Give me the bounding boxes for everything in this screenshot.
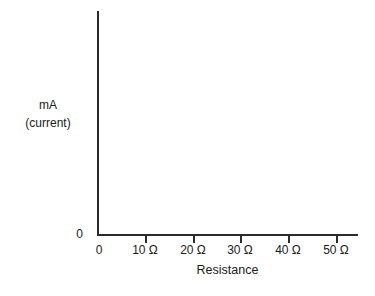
y-axis-line [97, 11, 99, 236]
x-axis-title: Resistance [97, 262, 358, 278]
x-axis-tick-30 [240, 236, 242, 243]
x-axis-tick-20 [193, 236, 195, 243]
x-axis-tick-label-40: 40 Ω [275, 243, 301, 257]
y-axis-title: mA (current) [8, 96, 88, 132]
y-axis-title-line2: (current) [8, 114, 88, 132]
x-axis-tick-label-50: 50 Ω [323, 243, 349, 257]
plot-area [99, 11, 358, 234]
y-axis-tick-label-0: 0 [76, 227, 83, 241]
x-axis-tick-label-10: 10 Ω [132, 243, 158, 257]
x-axis-line [97, 234, 358, 236]
y-axis-title-line1: mA [8, 96, 88, 114]
chart-screenshot: 0 10 Ω 20 Ω 30 Ω 40 Ω 50 Ω 0 mA (current… [0, 0, 375, 296]
x-axis-tick-label-0: 0 [96, 243, 103, 257]
x-axis-tick-40 [288, 236, 290, 243]
x-axis-tick-10 [145, 236, 147, 243]
x-axis-tick-label-20: 20 Ω [180, 243, 206, 257]
x-axis-tick-label-30: 30 Ω [227, 243, 253, 257]
x-axis-tick-50 [336, 236, 338, 243]
resistance-current-chart: 0 10 Ω 20 Ω 30 Ω 40 Ω 50 Ω 0 mA (current… [0, 0, 375, 296]
